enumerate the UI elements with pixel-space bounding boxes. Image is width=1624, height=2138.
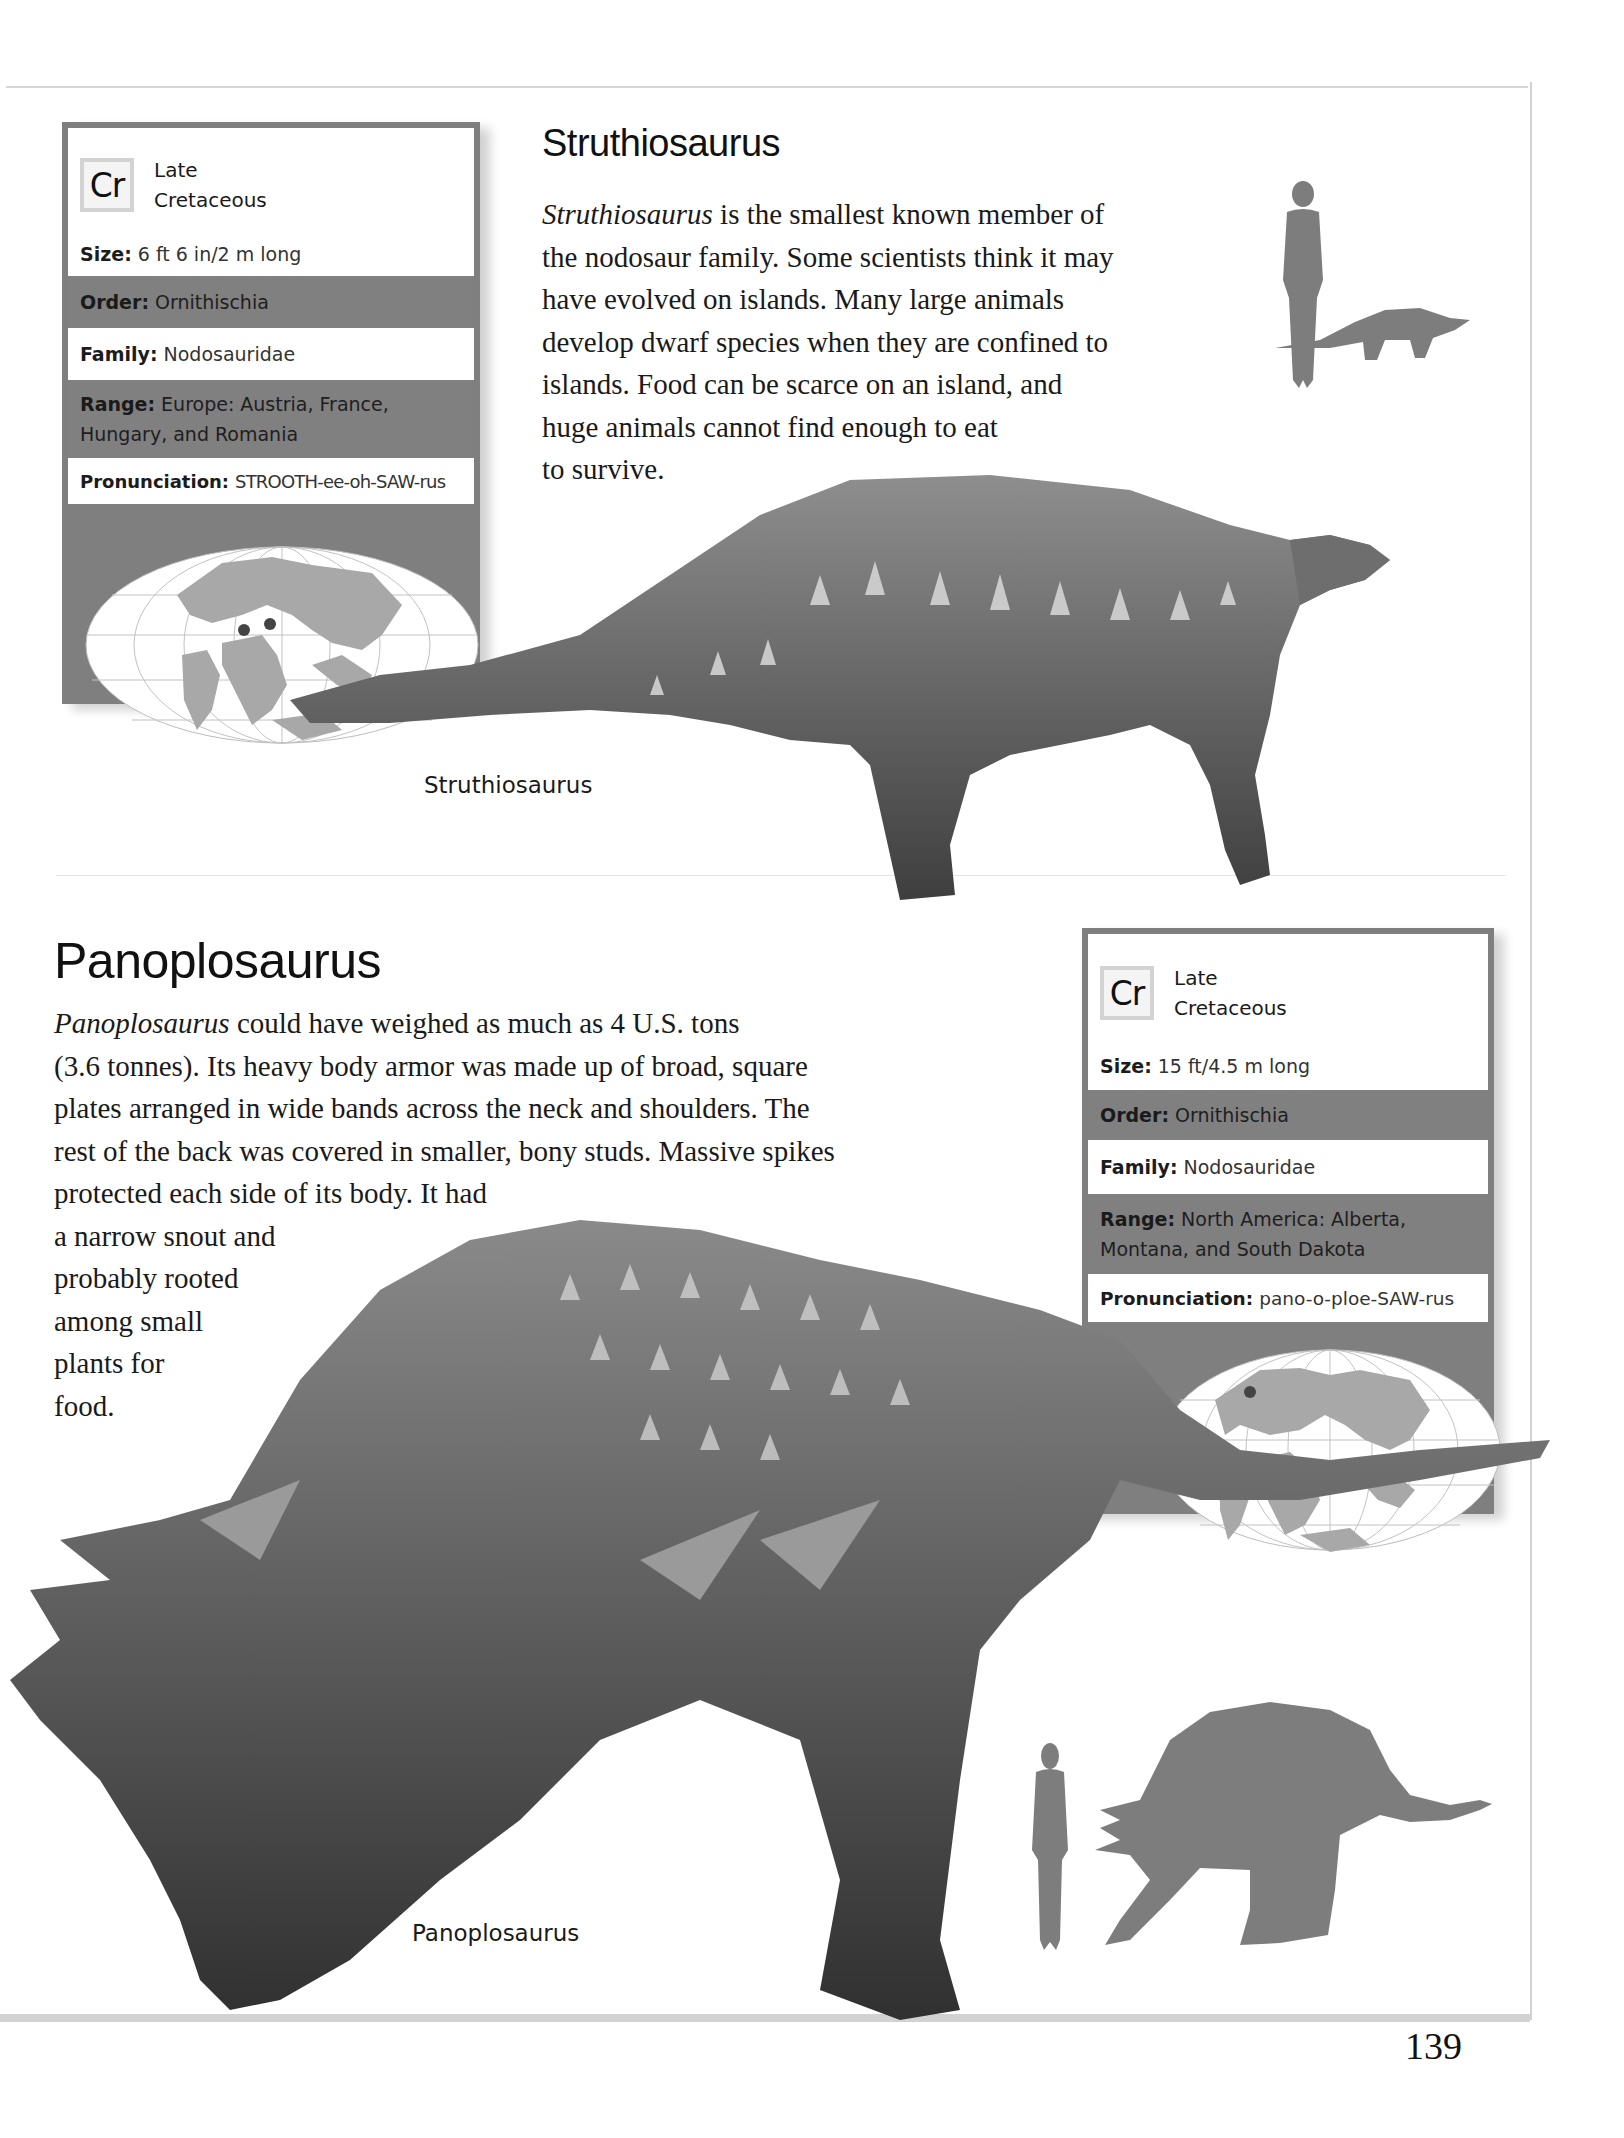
human-silhouette-icon — [1283, 181, 1323, 388]
period-code: Cr — [84, 162, 130, 208]
human-silhouette-icon — [1032, 1743, 1068, 1950]
range-row: Range:Europe: Austria, France, Hungary, … — [68, 380, 474, 458]
order-row: Order:Ornithischia — [1088, 1090, 1488, 1140]
illustration-caption: Panoplosaurus — [412, 1920, 579, 1946]
period-label: Late Cretaceous — [1174, 963, 1287, 1023]
period-row: Cr Late Cretaceous — [1088, 934, 1488, 1042]
page-number: 139 — [1405, 2024, 1462, 2068]
map-marker-icon — [238, 624, 250, 636]
family-row: Family:Nodosauridae — [68, 328, 474, 380]
period-badge: Cr — [1100, 966, 1154, 1020]
panoplosaurus-scale-comparison — [1010, 1700, 1570, 2000]
page-frame-top-rule — [6, 86, 1528, 88]
period-badge: Cr — [80, 158, 134, 212]
period-code: Cr — [1104, 970, 1150, 1016]
species-title: Struthiosaurus — [542, 122, 780, 165]
map-marker-icon — [264, 618, 276, 630]
order-row: Order:Ornithischia — [68, 276, 474, 328]
panoplosaurus-silhouette-icon — [1095, 1702, 1492, 1945]
size-row: Size:15 ft/4.5 m long — [1088, 1042, 1488, 1090]
period-row: Cr Late Cretaceous — [68, 128, 474, 232]
struthiosaurus-scale-comparison — [1255, 180, 1495, 400]
struthiosaurus-illustration — [290, 455, 1580, 925]
size-row: Size:6 ft 6 in/2 m long — [68, 232, 474, 276]
illustration-caption: Struthiosaurus — [424, 772, 592, 798]
species-title: Panoplosaurus — [54, 932, 381, 990]
species-description: Struthiosaurus is the smallest known mem… — [542, 193, 1114, 491]
period-label: Late Cretaceous — [154, 155, 267, 215]
